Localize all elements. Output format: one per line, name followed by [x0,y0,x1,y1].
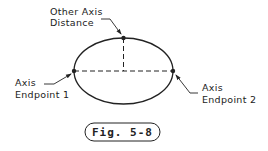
ellipse-diagram: Other Axis Distance Axis Endpoint 1 Axis… [0,0,268,151]
other-axis-label-line1: Other Axis [50,6,103,17]
other-axis-leader [101,19,121,34]
other-axis-point [121,36,125,40]
endpoint-1-label-line2: Endpoint 1 [15,89,69,100]
endpoint-2-label-line1: Axis [202,82,223,93]
other-axis-label-line2: Distance [50,17,94,28]
endpoint-2-leader [176,75,198,93]
endpoint-2-point [171,69,175,73]
figure-caption: Fig. 5-8 [92,126,153,139]
endpoint-2-label-line2: Endpoint 2 [202,94,256,105]
endpoint-1-label-line1: Axis [15,77,36,88]
endpoint-1-point [72,69,76,73]
endpoint-1-leader [44,74,71,84]
